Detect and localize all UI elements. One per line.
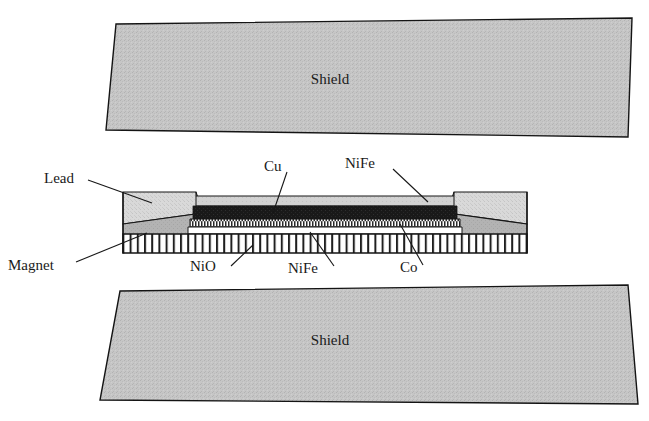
top-shield-label: Shield — [311, 71, 350, 87]
layer-nife-bottom — [188, 227, 462, 234]
label-nio: NiO — [190, 258, 216, 274]
label-nife-bottom: NiFe — [288, 260, 318, 276]
layer-nife-top — [196, 196, 454, 206]
layer-cu — [193, 206, 457, 219]
stack-taper-edges — [196, 192, 454, 196]
top-shield: Shield — [106, 18, 632, 137]
bottom-shield: Shield — [100, 285, 638, 404]
bottom-shield-body — [100, 285, 638, 404]
diagram-canvas: Shield Shield — [0, 0, 649, 421]
layer-co — [190, 219, 460, 227]
label-co: Co — [400, 259, 418, 275]
label-cu: Cu — [264, 158, 282, 174]
layer-nio — [123, 234, 527, 253]
read-head-cross-section-diagram: Shield Shield — [0, 0, 649, 421]
top-shield-body — [106, 18, 632, 137]
label-lead: Lead — [44, 170, 74, 186]
label-nife-top: NiFe — [345, 155, 375, 171]
bottom-shield-label: Shield — [311, 332, 350, 348]
label-magnet: Magnet — [8, 257, 55, 273]
